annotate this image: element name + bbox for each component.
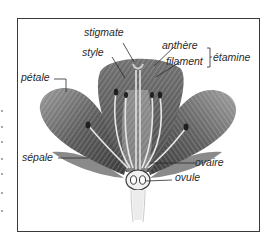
label-sepale: sépale: [22, 152, 53, 163]
ovary: [126, 170, 150, 190]
ovule-b: [140, 176, 146, 184]
ovule-a: [131, 176, 137, 184]
label-anthere: anthère: [162, 40, 198, 51]
stem: [132, 190, 144, 220]
bracket-etamine: [207, 48, 212, 67]
label-stigmate: stigmate: [84, 27, 124, 38]
label-ovule: ovule: [175, 172, 200, 183]
label-etamine: étamine: [213, 52, 250, 63]
label-petale: pétale: [21, 72, 50, 83]
flower-illustration: [0, 0, 272, 248]
label-filament: filament: [166, 56, 203, 67]
label-ovaire: ovaire: [195, 157, 224, 168]
leader-stigmate: [123, 43, 134, 62]
label-style: style: [82, 47, 104, 58]
